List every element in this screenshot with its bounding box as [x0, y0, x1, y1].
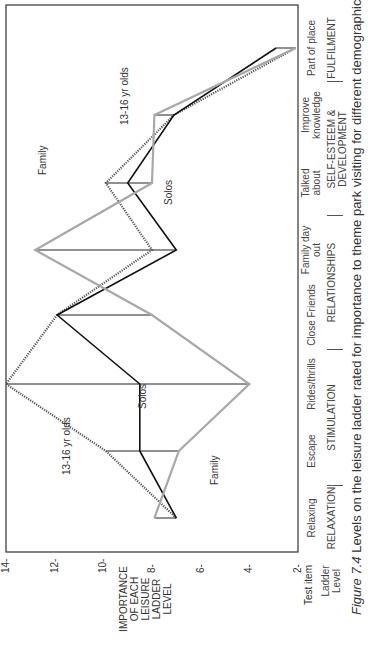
y-tick-label: 12- — [49, 559, 60, 573]
y-tick-label: 10- — [97, 559, 108, 573]
series-annotation: 13-16 yr olds — [61, 417, 72, 475]
series-solos-line — [57, 48, 276, 518]
level-separator — [327, 215, 343, 217]
series-annotation: Solos — [163, 180, 174, 205]
y-tick-label: 6- — [195, 564, 206, 573]
category-label: Improve knowledge — [300, 90, 322, 140]
level-separator — [327, 81, 343, 83]
plot-frame — [6, 5, 298, 552]
level-separator — [327, 485, 343, 487]
category-label: Relaxing — [306, 483, 317, 553]
rotated-figure: 13-16 yr oldsSolosFamilyFamilySolos13-16… — [0, 0, 368, 645]
series-13-16-yr-olds-line — [6, 48, 296, 518]
y-tick-label: 4- — [243, 564, 254, 573]
ladder-level-label: STIMULATION — [326, 368, 337, 468]
ladder-level-label: RELATIONSHIPS — [326, 233, 337, 333]
y-tick-label: 2- — [292, 564, 303, 573]
category-label: Part of place — [306, 13, 317, 83]
category-label: Rides/thrills — [306, 349, 317, 419]
test-item-label: Test item — [303, 565, 314, 605]
y-axis-label-line: OF EACH — [129, 559, 140, 639]
series-annotation: Solos — [137, 384, 148, 409]
series-annotation: Family — [37, 146, 48, 175]
ladder-level-label: FULFILMENT — [326, 0, 337, 98]
category-label: Escape — [306, 416, 317, 486]
category-label: Close Friends — [306, 280, 317, 350]
y-axis-label-line: LEISURE — [140, 559, 151, 639]
y-tick-label: 14- — [0, 559, 11, 573]
category-label: Family day out — [300, 225, 322, 275]
y-axis-label-line: LEVEL — [162, 559, 173, 639]
category-label: Talked about — [300, 158, 322, 208]
series-family-line — [35, 48, 295, 518]
ladder-level-label: SELF-ESTEEM & DEVELOPMENT — [326, 109, 348, 189]
y-axis-label: IMPORTANCE OF EACH LEISURE LADDER LEVEL — [118, 559, 173, 639]
ladder-level-label: RELAXATION — [326, 468, 337, 568]
series-annotation: Family — [209, 456, 220, 485]
level-separator — [327, 349, 343, 351]
y-axis-label-line: IMPORTANCE — [118, 559, 129, 639]
caption-text: Levels on the leisure ladder rated for i… — [349, 0, 364, 556]
series-annotation: 13-16 yr olds — [119, 67, 130, 125]
y-axis-label-line: LADDER — [151, 559, 162, 639]
figure-number: Figure 7.4 — [349, 556, 364, 615]
figure-caption: Figure 7.4 Levels on the leisure ladder … — [349, 0, 364, 615]
